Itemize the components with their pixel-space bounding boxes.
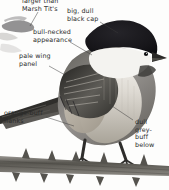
illustration-plate: larger than Marsh Tit's big, dull black … (0, 0, 169, 190)
label-black-cap: big, dull black cap (67, 8, 98, 23)
label-size-comparison: larger than Marsh Tit's (22, 0, 58, 13)
label-orange-buff-flanks: orange-buff flanks (4, 110, 43, 125)
label-wing-panel: pale wing panel (19, 53, 51, 68)
bird-illustration-artwork (0, 0, 169, 190)
label-bull-neck: bull-necked appearance (33, 29, 72, 44)
label-grey-buff-below: dull grey- buff below (135, 119, 154, 149)
